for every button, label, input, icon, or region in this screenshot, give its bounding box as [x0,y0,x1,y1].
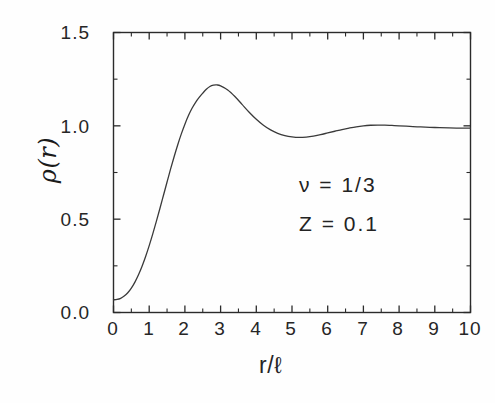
xtick-label-8: 8 [378,318,418,340]
xtick-label-9: 9 [414,318,454,340]
nu-annotation: ν = 1/3 [299,173,377,197]
density-curve [114,85,471,300]
xtick-label-6: 6 [307,318,347,340]
xtick-label-3: 3 [200,318,240,340]
xtick-label-0: 0 [93,318,133,340]
ytick-label-0-0: 0.0 [18,302,90,324]
x-axis-title: r/ℓ [259,352,282,379]
xtick-label-1: 1 [129,318,169,340]
ytick-label-1-5: 1.5 [18,22,90,44]
y-axis-title-wrap: ρ(r) [34,100,74,220]
y-axis-title: ρ(r) [34,100,62,220]
z-annotation: Z = 0.1 [299,212,379,236]
xtick-label-4: 4 [236,318,276,340]
density-profile-figure: 1.5 1.0 0.5 0.0 0 1 2 3 4 5 6 7 8 9 10 ρ… [0,0,495,403]
plot-canvas [0,0,495,403]
xtick-label-5: 5 [271,318,311,340]
plot-frame [114,33,471,313]
xtick-label-10: 10 [450,318,490,340]
xtick-label-7: 7 [343,318,383,340]
xtick-label-2: 2 [164,318,204,340]
